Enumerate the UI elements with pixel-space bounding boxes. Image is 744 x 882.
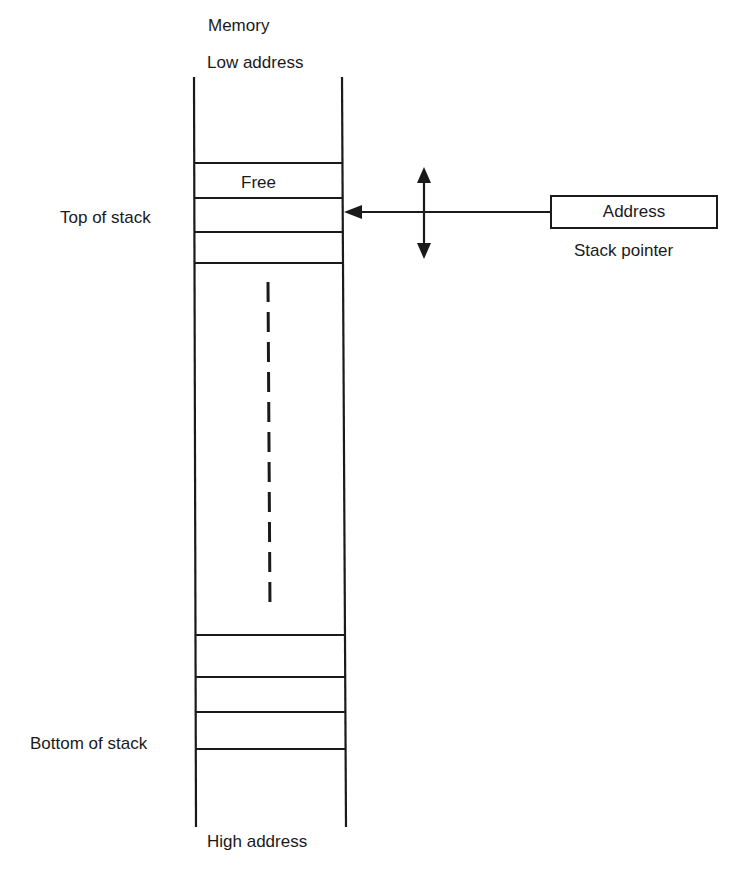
bottom-of-stack-label: Bottom of stack xyxy=(30,735,147,752)
top-of-stack-label: Top of stack xyxy=(60,209,151,226)
dashed-line-icon xyxy=(268,282,270,610)
low-address-label: Low address xyxy=(207,54,303,71)
high-address-label: High address xyxy=(207,833,307,850)
free-cell-label: Free xyxy=(241,174,276,191)
register-value-label: Address xyxy=(603,202,665,222)
arrow-left-icon xyxy=(344,205,550,219)
memory-column-right-edge xyxy=(342,77,346,827)
memory-column-left-edge xyxy=(194,77,196,827)
figure-caption-cropped xyxy=(0,872,744,882)
memory-title: Memory xyxy=(208,17,269,34)
stack-pointer-register-box: Address xyxy=(550,195,718,229)
stack-pointer-label: Stack pointer xyxy=(574,242,673,259)
